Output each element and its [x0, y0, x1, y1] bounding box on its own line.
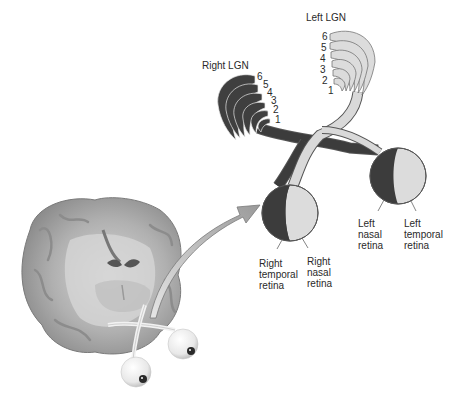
right-lgn-layer-1: 1 [275, 115, 281, 125]
left-eyeball [168, 329, 198, 359]
left-temporal-retina-label: Left temporal retina [404, 218, 443, 251]
right-temporal-retina-label: Right temporal retina [259, 258, 298, 291]
left-lgn [330, 31, 375, 95]
left-lgn-layer-4: 4 [320, 54, 326, 64]
left-lgn-layer-1: 1 [328, 86, 334, 96]
right-lgn-label: Right LGN [202, 60, 249, 71]
right-lgn-layer-6: 6 [257, 72, 263, 82]
left-lgn-layer-3: 3 [320, 65, 326, 75]
left-lgn-label: Left LGN [306, 12, 346, 23]
left-eye-retina [370, 148, 426, 211]
right-nasal-retina-label: Right nasal retina [307, 256, 332, 289]
brain-cross-section [22, 198, 181, 354]
right-eyeball [121, 357, 151, 387]
left-nasal-retina-label: Left nasal retina [358, 218, 383, 251]
left-lgn-layer-2: 2 [322, 76, 328, 86]
left-lgn-layer-6: 6 [322, 32, 328, 42]
right-eye-retina [262, 185, 318, 249]
left-lgn-layer-5: 5 [321, 43, 327, 53]
